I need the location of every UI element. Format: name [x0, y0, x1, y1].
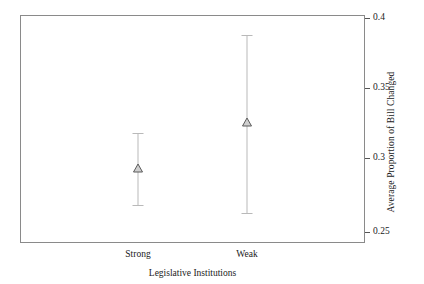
data-marker-weak	[242, 117, 253, 127]
errorbar-cap-upper-strong	[133, 133, 144, 134]
x-axis-title: Legislative Institutions	[20, 268, 365, 278]
errorbar-cap-lower-weak	[242, 213, 253, 214]
error-bar-chart-figure: 0.4 0.35 0.3 0.25 Average Proportion of …	[0, 0, 424, 284]
x-category-label-strong: Strong	[125, 250, 150, 260]
plot-area	[20, 15, 365, 243]
y-axis-title: Average Proportion of Bill Changed	[382, 0, 400, 284]
y-tick-mark-0	[365, 18, 370, 19]
y-tick-mark-3	[365, 232, 370, 233]
y-tick-mark-2	[365, 158, 370, 159]
y-tick-mark-1	[365, 88, 370, 89]
x-category-label-weak: Weak	[236, 250, 257, 260]
errorbar-cap-upper-weak	[242, 35, 253, 36]
data-marker-strong	[133, 163, 144, 173]
errorbar-cap-lower-strong	[133, 205, 144, 206]
